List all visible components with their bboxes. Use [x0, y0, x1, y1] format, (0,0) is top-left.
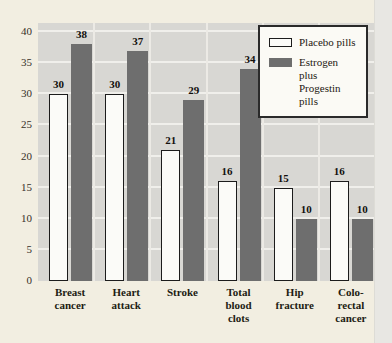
gridline-vertical: [206, 23, 208, 281]
bar-estrogen-3: [183, 100, 204, 281]
bar-value-label: 29: [177, 84, 210, 96]
y-tick-label: 15: [0, 181, 32, 194]
bar-value-label: 15: [268, 172, 299, 184]
bar-placebo-1: [49, 94, 68, 281]
y-tick-label: 10: [0, 212, 32, 225]
bar-estrogen-1: [71, 44, 92, 281]
category-label-3: Stroke: [154, 286, 210, 299]
category-label-2: Heart attack: [98, 286, 154, 312]
bar-value-label: 16: [212, 165, 243, 177]
bar-placebo-2: [105, 94, 124, 281]
legend-swatch-placebo: [269, 38, 292, 47]
legend: Placebo pillsEstrogen plus Progestin pil…: [258, 25, 368, 118]
bar-value-label: 30: [43, 78, 74, 90]
legend-label: Placebo pills: [299, 36, 356, 49]
bar-placebo-4: [218, 181, 237, 281]
legend-item-1: Placebo pills: [269, 36, 358, 49]
bar-estrogen-6: [352, 219, 373, 281]
chart-page: 303830372129163415101610 051015202530354…: [0, 0, 392, 343]
y-tick-label: 35: [0, 56, 32, 69]
bar-placebo-3: [161, 150, 180, 281]
y-tick-label: 0: [0, 274, 32, 287]
bar-placebo-6: [330, 181, 349, 281]
gridline-vertical: [93, 23, 95, 281]
y-tick-label: 5: [0, 243, 32, 256]
bar-estrogen-5: [296, 219, 317, 281]
bar-value-label: 10: [290, 203, 323, 215]
category-label-1: Breast cancer: [42, 286, 98, 312]
y-tick-label: 30: [0, 87, 32, 100]
legend-label: Estrogen plus Progestin pills: [299, 56, 358, 108]
bar-estrogen-2: [127, 51, 148, 281]
bar-value-label: 38: [65, 28, 98, 40]
legend-swatch-estrogen: [269, 58, 292, 67]
category-label-6: Colo- rectal cancer: [323, 286, 379, 325]
y-tick-label: 25: [0, 118, 32, 131]
page-edge: [374, 0, 392, 343]
bar-placebo-5: [274, 188, 293, 281]
legend-item-2: Estrogen plus Progestin pills: [269, 56, 358, 108]
y-tick-label: 40: [0, 25, 32, 38]
bar-value-label: 21: [155, 134, 186, 146]
category-label-5: Hip fracture: [267, 286, 323, 312]
bar-value-label: 37: [121, 35, 154, 47]
y-tick-label: 20: [0, 150, 32, 163]
bar-value-label: 30: [99, 78, 130, 90]
category-label-4: Total blood clots: [211, 286, 267, 325]
gridline-vertical: [149, 23, 151, 281]
bar-value-label: 16: [324, 165, 355, 177]
